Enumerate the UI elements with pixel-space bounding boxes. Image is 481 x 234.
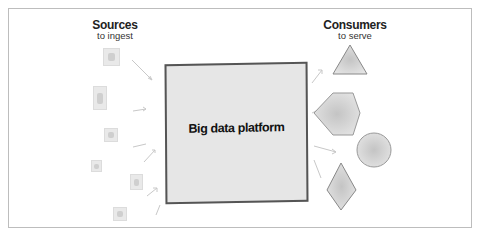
diamond-icon: [327, 163, 356, 210]
hexagon-icon: [314, 93, 360, 135]
triangle-icon: [333, 45, 367, 74]
circle-icon: [357, 133, 391, 167]
consumer-shapes: [0, 0, 481, 234]
